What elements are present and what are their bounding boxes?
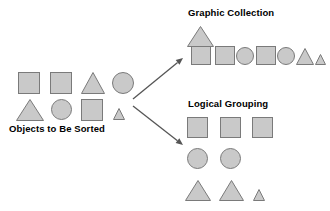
triangle-shape <box>114 109 125 120</box>
shapes-layer <box>17 27 326 201</box>
circle-shape <box>52 100 72 120</box>
triangle-shape <box>188 27 214 47</box>
circle-shape <box>188 149 208 169</box>
triangle-shape <box>186 181 211 201</box>
triangle-shape <box>17 100 44 121</box>
logical-grouping-label: Logical Grouping <box>188 98 268 109</box>
graphic-collection-label: Graphic Collection <box>188 7 274 18</box>
triangle-shape <box>316 55 326 65</box>
triangle-shape <box>297 49 314 65</box>
circle-shape <box>278 48 295 65</box>
circle-shape <box>221 149 241 169</box>
source-group-label: Objects to Be Sorted <box>9 123 105 134</box>
square-shape <box>192 47 211 65</box>
arrow-line <box>133 62 178 99</box>
circle-shape <box>237 48 254 65</box>
square-shape <box>188 118 208 138</box>
square-shape <box>51 73 72 94</box>
circle-shape <box>113 73 134 94</box>
arrow-to-graphic-collection <box>133 58 183 99</box>
square-shape <box>19 73 40 94</box>
square-shape <box>82 100 103 121</box>
triangle-shape <box>82 73 105 94</box>
square-shape <box>216 47 235 65</box>
square-shape <box>221 118 241 138</box>
triangle-shape <box>254 190 265 201</box>
square-shape <box>257 47 276 65</box>
arrows-layer <box>133 58 183 145</box>
triangle-shape <box>220 181 244 201</box>
square-shape <box>253 118 273 138</box>
diagram-canvas <box>0 0 330 211</box>
arrow-to-logical-grouping <box>133 106 183 145</box>
arrow-line <box>133 106 177 141</box>
